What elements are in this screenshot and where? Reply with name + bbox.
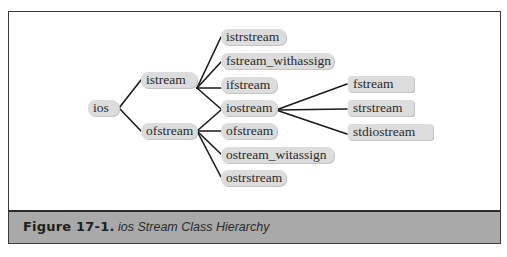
node-ostrstream: ostrstream: [221, 170, 286, 186]
edge-iostream-stdiostream: [276, 110, 347, 134]
node-ofstream: ofstream: [141, 123, 197, 139]
edge-istream-iostream: [197, 88, 221, 109]
figure-caption: Figure 17-1. ios Stream Class Hierarchy: [8, 210, 501, 244]
edge-ios-ofstream: [119, 108, 141, 131]
node-ostream-witassign: ostream_witassign: [221, 147, 334, 163]
node-istream: istream: [141, 72, 197, 88]
edge-istream-istrstream: [197, 37, 221, 88]
edge-ofstream-iostream: [197, 110, 221, 131]
node-ios: ios: [88, 100, 119, 116]
edge-iostream-strstream: [276, 109, 347, 110]
edge-istream-fstream-withassign: [197, 62, 221, 88]
node-istrstream: istrstream: [221, 29, 286, 45]
edge-ofstream-ostrstream: [197, 131, 221, 177]
figure-number: Figure 17-1.: [23, 219, 115, 234]
node-fstream: fstream: [348, 76, 414, 92]
figure-title: ios Stream Class Hierarchy: [118, 220, 269, 234]
node-stdiostream: stdiostream: [348, 124, 433, 140]
node-strstream: strstream: [348, 100, 414, 116]
edge-ios-istream: [119, 80, 141, 108]
node-ifstream: ifstream: [221, 77, 277, 93]
node-ofstream-derived: ofstream: [221, 123, 277, 139]
node-fstream-withassign: fstream_withassign: [221, 53, 334, 69]
edge-ofstream-ostream-witassign: [197, 131, 221, 154]
node-iostream: iostream: [221, 100, 277, 116]
edge-iostream-fstream: [276, 84, 347, 110]
